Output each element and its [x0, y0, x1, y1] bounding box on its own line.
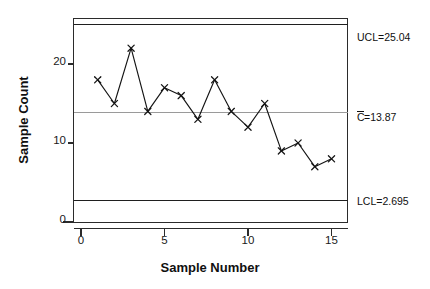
data-point-marker — [111, 100, 117, 106]
y-axis-ticks — [68, 64, 74, 222]
data-series-group — [95, 45, 335, 170]
data-point-marker — [312, 164, 318, 170]
x-tick-label-10: 10 — [242, 234, 255, 246]
data-point-marker — [95, 77, 101, 83]
control-chart-figure: 0 10 20 0 5 10 15 Sample Count Sample Nu… — [0, 0, 430, 289]
data-point-marker — [278, 148, 284, 154]
series-line-sample-count — [98, 48, 332, 167]
y-axis-title: Sample Count — [16, 76, 31, 164]
y-tick-label-10: 10 — [53, 134, 66, 146]
lcl-label: LCL=2.695 — [357, 195, 409, 207]
center-line-label-group: C =13.87 — [357, 111, 397, 123]
center-line-label-value: =13.87 — [364, 111, 397, 123]
chart-canvas: 0 10 20 0 5 10 15 Sample Count Sample Nu… — [0, 0, 430, 289]
y-tick-label-20: 20 — [53, 55, 66, 67]
data-point-marker — [245, 124, 251, 130]
data-point-marker — [178, 93, 184, 99]
y-tick-label-0: 0 — [60, 213, 66, 225]
data-point-marker — [212, 77, 218, 83]
data-point-markers — [95, 45, 335, 170]
data-point-marker — [161, 85, 167, 91]
x-axis-title: Sample Number — [161, 260, 260, 275]
data-point-marker — [262, 100, 268, 106]
x-axis-ticks — [63, 222, 348, 236]
data-point-marker — [228, 108, 234, 114]
x-tick-label-5: 5 — [161, 234, 167, 246]
reference-lines-group — [74, 24, 348, 201]
x-tick-label-0: 0 — [78, 234, 84, 246]
data-point-marker — [328, 156, 334, 162]
x-tick-label-15: 15 — [325, 234, 338, 246]
ucl-label: UCL=25.04 — [357, 31, 411, 43]
data-point-marker — [195, 116, 201, 122]
data-point-marker — [295, 140, 301, 146]
plot-frame — [74, 19, 348, 223]
